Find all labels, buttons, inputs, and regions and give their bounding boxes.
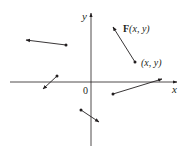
vector-arrow xyxy=(81,110,99,122)
vector-right-below-axis xyxy=(112,79,163,96)
field-args: (x, y) xyxy=(129,23,150,35)
point-label: (x, y) xyxy=(141,57,162,69)
vector-upper-left xyxy=(26,40,68,47)
vector-bottom-center xyxy=(80,109,100,123)
vector-tail-point xyxy=(134,61,137,64)
vector-tail-point xyxy=(112,93,115,96)
vector-arrow xyxy=(43,76,57,89)
origin-label: 0 xyxy=(83,85,88,96)
vector-group xyxy=(26,27,162,122)
vector-tail-point xyxy=(80,109,83,112)
y-axis-label: y xyxy=(81,10,87,22)
vector-arrow xyxy=(26,40,66,45)
vector-tail-point xyxy=(56,75,59,78)
field-label: F(x, y) xyxy=(123,23,150,35)
vector-arrow xyxy=(113,79,162,94)
vector-field-diagram: x y 0 F(x, y) (x, y) xyxy=(0,0,189,158)
x-axis-label: x xyxy=(171,83,177,95)
vector-tail-point xyxy=(65,44,68,47)
